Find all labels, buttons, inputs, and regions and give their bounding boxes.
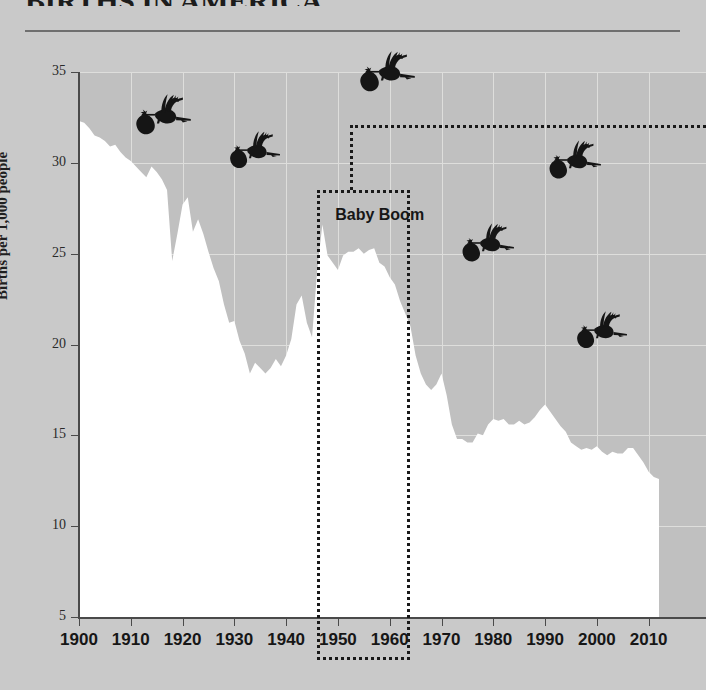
y-axis-line [78, 72, 80, 618]
x-axis-tick [649, 618, 650, 626]
y-axis-tick [71, 345, 78, 346]
stork-1931-icon [219, 130, 281, 178]
y-axis-tick [71, 435, 78, 436]
y-axis-tick [71, 526, 78, 527]
y-axis-caption: Births per 1,000 people [0, 152, 11, 300]
y-axis-tick-label: 10 [52, 517, 66, 533]
y-axis-tick-label: 25 [52, 245, 66, 261]
x-axis-tick [79, 618, 80, 626]
x-axis-tick-label: 2000 [578, 630, 616, 650]
x-axis-tick-label: 1980 [474, 630, 512, 650]
x-axis-tick-label: 2010 [630, 630, 668, 650]
x-axis-tick [442, 618, 443, 626]
x-axis-tick-label: 1970 [423, 630, 461, 650]
x-axis-tick-label: 1930 [215, 630, 253, 650]
x-axis-tick-label: 1990 [526, 630, 564, 650]
header-rule [25, 30, 680, 32]
y-axis-tick-label: 35 [52, 63, 66, 79]
x-axis-tick-label: 1900 [60, 630, 98, 650]
x-axis-tick [234, 618, 235, 626]
stork-1976-icon [451, 222, 515, 272]
stork-1915-icon [124, 93, 192, 145]
x-axis-tick [131, 618, 132, 626]
y-axis-tick [71, 163, 78, 164]
baby-boom-callout-box [317, 190, 410, 660]
y-axis-tick-label: 15 [52, 426, 66, 442]
x-axis-tick [493, 618, 494, 626]
x-axis-tick-label: 1910 [112, 630, 150, 650]
callout-horizontal-leader [350, 125, 706, 128]
x-axis-tick [183, 618, 184, 626]
y-axis-tick [71, 617, 78, 618]
y-axis-tick-label: 20 [52, 336, 66, 352]
chart-page: BIRTHS IN AMERICA 3530252015105 19001910… [0, 0, 706, 690]
stork-1992-icon [538, 139, 602, 189]
x-axis-tick [545, 618, 546, 626]
y-axis-tick [71, 254, 78, 255]
y-axis-tick-label: 30 [52, 154, 66, 170]
page-title: BIRTHS IN AMERICA [25, 0, 322, 6]
x-axis-tick [286, 618, 287, 626]
y-axis-tick-label: 5 [59, 608, 66, 624]
y-axis-tick [71, 72, 78, 73]
stork-1999-icon [566, 310, 628, 358]
x-axis-tick-label: 1940 [267, 630, 305, 650]
x-axis-tick-label: 1920 [164, 630, 202, 650]
callout-vertical-leader [350, 125, 353, 190]
stork-1953-icon [347, 50, 417, 102]
baby-boom-label: Baby Boom [335, 206, 424, 224]
x-axis-tick [597, 618, 598, 626]
